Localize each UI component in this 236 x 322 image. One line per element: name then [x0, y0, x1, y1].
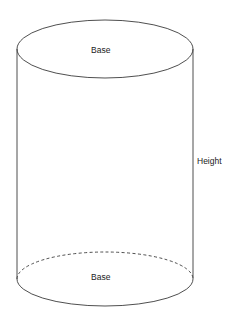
- top-base-label: Base: [91, 45, 110, 55]
- bottom-base-visible-arc: [17, 279, 193, 306]
- bottom-base-label: Base: [91, 272, 110, 282]
- cylinder-figure: lateral face. Base Base Height: [0, 0, 236, 322]
- height-label: Height: [197, 156, 222, 166]
